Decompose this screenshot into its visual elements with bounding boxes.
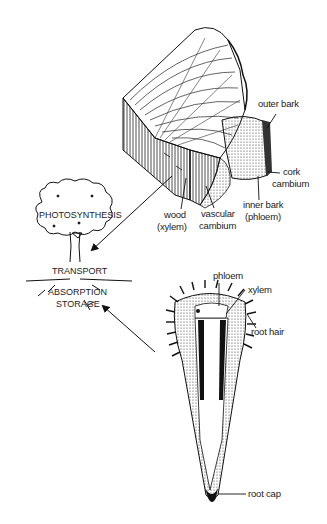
arrow-root-to-tree: [103, 306, 155, 352]
label-root-cap: root cap: [248, 488, 281, 499]
label-cork-cambium-line1: cork: [283, 166, 300, 177]
diagram-canvas: [0, 0, 327, 524]
label-outer-bark: outer bark: [258, 98, 299, 109]
label-photosynthesis: PHOTOSYNTHESIS: [39, 210, 122, 221]
label-absorption: ABSORPTION: [48, 287, 107, 298]
label-cork-cambium-line2: cambium: [272, 178, 309, 189]
label-wood-line1: wood: [164, 209, 186, 220]
label-root-hair: root hair: [251, 326, 284, 337]
root-tip-illustration: [166, 280, 256, 502]
label-storage: STORAGE: [56, 299, 100, 310]
label-xylem: xylem: [248, 284, 272, 295]
label-transport: TRANSPORT: [52, 266, 107, 277]
trunk-wedge-illustration: [123, 28, 272, 208]
label-inner-bark-line1: inner bark: [243, 199, 283, 210]
label-wood-line2: (xylem): [157, 221, 187, 232]
label-inner-bark-line2: (phloem): [245, 211, 281, 222]
label-vascular-cambium-line2: cambium: [199, 220, 236, 231]
label-vascular-cambium-line1: vascular: [201, 208, 235, 219]
label-phloem: phloem: [213, 270, 243, 281]
